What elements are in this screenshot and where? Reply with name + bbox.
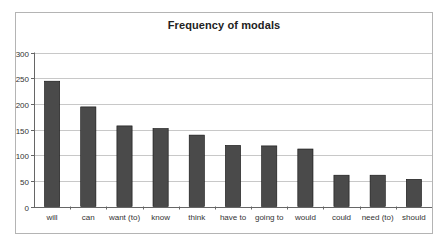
- bar-want-to: [117, 126, 132, 207]
- bars: [45, 81, 422, 206]
- bar-will: [45, 81, 60, 206]
- bar-can: [81, 107, 96, 207]
- x-tick-label: want (to): [108, 213, 140, 222]
- x-tick-label: should: [402, 213, 426, 222]
- y-tick-label: 0: [25, 204, 30, 213]
- bar-should: [406, 179, 421, 206]
- y-tick-label: 300: [16, 50, 30, 59]
- bar-could: [334, 175, 349, 206]
- y-tick-label: 100: [16, 152, 30, 161]
- bar-going-to: [262, 146, 277, 207]
- x-tick-label: will: [46, 213, 58, 222]
- x-tick-label: know: [151, 213, 170, 222]
- x-axis-tick-labels: willcanwant (to)knowthinkhave togoing to…: [46, 213, 426, 222]
- x-tick-label: need (to): [362, 213, 394, 222]
- bar-know: [153, 129, 168, 207]
- bar-think: [189, 135, 204, 206]
- y-axis-tick-labels: 050100150200250300: [16, 50, 30, 213]
- x-tick-label: can: [82, 213, 95, 222]
- y-tick-label: 50: [20, 178, 29, 187]
- bar-have-to: [225, 145, 240, 206]
- bar-would: [298, 149, 313, 207]
- bar-need-to: [370, 175, 385, 206]
- bar-chart-plot: 050100150200250300 willcanwant (to)knowt…: [0, 0, 448, 242]
- x-tick-label: could: [332, 213, 351, 222]
- y-tick-label: 150: [16, 127, 30, 136]
- y-tick-label: 200: [16, 101, 30, 110]
- x-tick-label: have to: [220, 213, 247, 222]
- x-tick-label: would: [294, 213, 316, 222]
- x-tick-label: going to: [255, 213, 284, 222]
- x-tick-label: think: [188, 213, 206, 222]
- y-tick-label: 250: [16, 75, 30, 84]
